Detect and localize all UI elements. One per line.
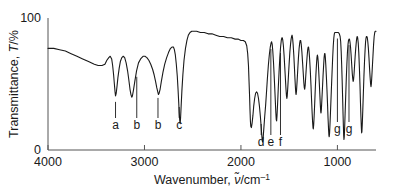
y-axis-title-prefix: Transmittance, [7, 52, 21, 138]
y-tick-label-0: 0 [34, 143, 41, 157]
spectrum-trace [48, 31, 376, 142]
x-tick-label-3000: 3000 [131, 155, 159, 169]
x-axis-title-exponent: –1 [261, 172, 271, 182]
x-axis-title: Wavenumber, ν̃/cm–1 [154, 172, 270, 187]
x-axis-ticks [48, 145, 337, 150]
peak-label-b-1: b [133, 118, 140, 132]
x-axis-title-unit: /cm [240, 173, 260, 187]
peak-label-a-0: a [112, 118, 119, 132]
peak-label-d-4: d [258, 135, 265, 149]
x-axis-tick-labels: 4000300020001000 [34, 155, 351, 169]
x-tick-label-1000: 1000 [324, 155, 352, 169]
svg-text:Wavenumber, ν̃/cm–1: Wavenumber, ν̃/cm–1 [154, 172, 270, 187]
peak-label-f-6: f [279, 135, 283, 149]
y-tick-label-100: 100 [20, 11, 41, 25]
svg-text:Transmittance, T/%: Transmittance, T/% [7, 30, 21, 138]
y-axis-title: Transmittance, T/% [7, 30, 21, 138]
y-axis-tick-labels: 0100 [20, 11, 41, 157]
x-tick-label-4000: 4000 [34, 155, 62, 169]
peak-label-g-7: g [334, 122, 341, 136]
spectrum-plot: 4000300020001000 0100 abbcdefgg Wavenumb… [0, 0, 402, 196]
peak-labels: abbcdefgg [112, 118, 352, 149]
x-tick-label-2000: 2000 [227, 155, 255, 169]
y-axis-title-unit: /% [7, 30, 21, 45]
peak-label-g-8: g [346, 122, 353, 136]
peak-label-e-5: e [268, 135, 275, 149]
x-axis-title-prefix: Wavenumber, [154, 173, 234, 187]
peak-label-c-3: c [176, 118, 182, 132]
peak-label-b-2: b [155, 118, 162, 132]
ir-spectrum-figure: 4000300020001000 0100 abbcdefgg Wavenumb… [0, 0, 402, 196]
